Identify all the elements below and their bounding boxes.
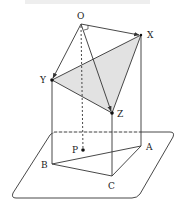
label-y: Y [39,75,47,85]
label-c: C [108,181,115,191]
segment-ba [52,146,141,164]
label-x: X [147,30,154,40]
point-p [81,148,85,152]
vector-ox [81,24,139,35]
triangle-xyz [52,35,141,113]
label-b: B [41,160,48,170]
point-x [140,34,142,36]
segment-ca [112,146,141,176]
label-a: A [145,142,153,152]
point-z [110,111,114,115]
label-p: P [72,145,78,155]
right-angle-mark [84,25,88,30]
label-z: Z [117,109,123,119]
segment-bc [52,164,112,176]
label-o: O [77,11,84,21]
point-y [50,78,54,82]
geometry-diagram: O X Y Z P A B C [0,0,185,208]
